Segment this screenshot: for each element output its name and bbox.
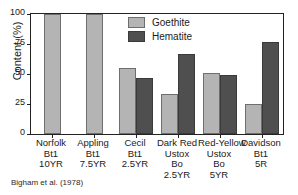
plot-area: 0255075100 Goethite Hematite bbox=[30, 13, 284, 135]
bar-goethite bbox=[203, 73, 220, 134]
x-axis-category-label: DavidsonBt15R bbox=[240, 138, 282, 170]
x-axis-category-line: Bo bbox=[198, 159, 240, 170]
x-axis-labels: NorfolkBt110YRApplingBt17.5YRCecilBt12.5… bbox=[30, 138, 284, 180]
bar-hematite bbox=[178, 54, 195, 134]
y-axis-tick-label: 100 bbox=[10, 7, 25, 17]
bar-goethite bbox=[44, 14, 61, 134]
bar-group bbox=[31, 14, 73, 134]
bar-goethite bbox=[86, 14, 103, 134]
y-axis-tick-label: 0 bbox=[20, 127, 25, 137]
y-axis-tick-label: 75 bbox=[15, 37, 25, 47]
legend-item-hematite: Hematite bbox=[128, 30, 192, 42]
bar-group bbox=[73, 14, 115, 134]
x-axis-category-line: Davidson bbox=[240, 138, 282, 149]
x-axis-category-label: Red-YellowUstoxBo5YR bbox=[198, 138, 240, 180]
y-axis-tick-label: 50 bbox=[15, 67, 25, 77]
x-axis-category-line: 5YR bbox=[198, 170, 240, 181]
x-axis-category-label: CecilBt12.5YR bbox=[114, 138, 156, 170]
bar-hematite bbox=[136, 78, 153, 134]
x-axis-category-label: NorfolkBt110YR bbox=[30, 138, 72, 170]
bar-hematite bbox=[220, 75, 237, 134]
x-axis-category-label: Dark RedUstoxBo2.5YR bbox=[156, 138, 198, 180]
x-axis-category-line: Dark Red bbox=[156, 138, 198, 149]
x-axis-category-line: Red-Yellow bbox=[198, 138, 240, 149]
legend-label-hematite: Hematite bbox=[152, 31, 192, 42]
source-citation: Bigham et al. (1978) bbox=[11, 178, 83, 187]
legend-swatch-hematite bbox=[128, 31, 145, 42]
bar-goethite bbox=[119, 68, 136, 134]
x-axis-category-line: 2.5YR bbox=[156, 170, 198, 181]
legend-swatch-goethite bbox=[128, 17, 145, 28]
x-axis-category-label: ApplingBt17.5YR bbox=[72, 138, 114, 170]
y-axis-tick-mark bbox=[27, 134, 31, 135]
chart-legend: Goethite Hematite bbox=[128, 16, 192, 42]
bar-goethite bbox=[245, 104, 262, 134]
legend-item-goethite: Goethite bbox=[128, 16, 192, 28]
x-axis-category-line: 7.5YR bbox=[72, 159, 114, 170]
bar-hematite bbox=[262, 42, 279, 134]
bar-chart-figure: Content (%) 0255075100 Goethite Hematite… bbox=[0, 0, 298, 195]
x-axis-category-line: Appling bbox=[72, 138, 114, 149]
y-axis-tick-label: 25 bbox=[15, 97, 25, 107]
legend-label-goethite: Goethite bbox=[152, 17, 190, 28]
x-axis-category-line: Norfolk bbox=[30, 138, 72, 149]
x-axis-category-line: 5R bbox=[240, 159, 282, 170]
bar-group bbox=[199, 14, 241, 134]
x-axis-category-line: 2.5YR bbox=[114, 159, 156, 170]
x-axis-category-line: Cecil bbox=[114, 138, 156, 149]
bar-goethite bbox=[161, 94, 178, 134]
x-axis-category-line: Bo bbox=[156, 159, 198, 170]
x-axis-category-line: 10YR bbox=[30, 159, 72, 170]
bar-group bbox=[241, 14, 283, 134]
